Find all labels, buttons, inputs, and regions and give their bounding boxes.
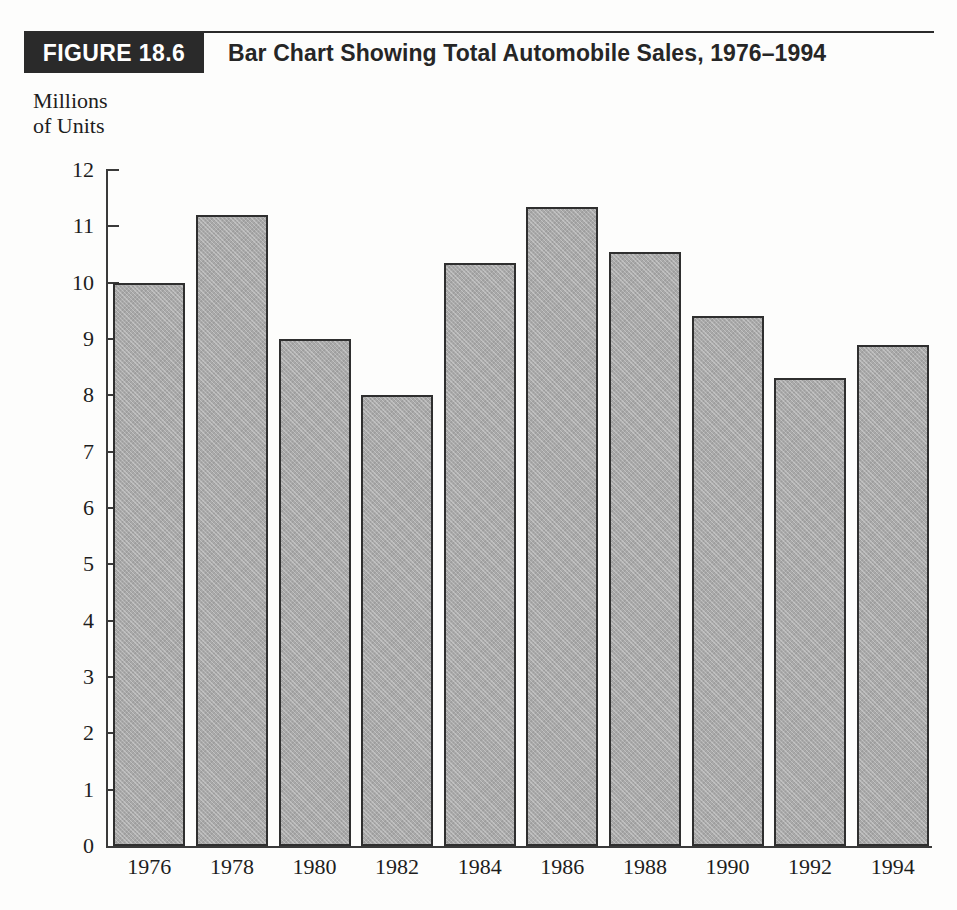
bar xyxy=(361,395,433,846)
bar xyxy=(279,339,351,846)
y-axis-line xyxy=(106,170,108,848)
bar xyxy=(774,378,846,846)
bar-chart-plot: 1211109876543210 19761978198019821984198… xyxy=(0,0,957,910)
y-tick-label: 10 xyxy=(48,272,94,294)
bar xyxy=(692,316,764,846)
bar xyxy=(609,252,681,846)
x-tick-label: 1990 xyxy=(686,856,770,878)
x-tick-label: 1978 xyxy=(190,856,274,878)
x-tick-label: 1984 xyxy=(438,856,522,878)
y-tick-label: 4 xyxy=(48,610,94,632)
x-tick-label: 1992 xyxy=(768,856,852,878)
y-tick-label: 11 xyxy=(48,215,94,237)
bar xyxy=(526,207,598,846)
x-axis-line xyxy=(106,846,932,848)
y-tick-label: 0 xyxy=(48,835,94,857)
x-tick-label: 1988 xyxy=(603,856,687,878)
bar xyxy=(444,263,516,846)
bar xyxy=(196,215,268,846)
y-tick-label: 2 xyxy=(48,722,94,744)
x-tick-label: 1994 xyxy=(851,856,935,878)
y-tick-label: 8 xyxy=(48,384,94,406)
y-tick-label: 7 xyxy=(48,441,94,463)
x-tick-label: 1980 xyxy=(273,856,357,878)
y-tick-label: 9 xyxy=(48,328,94,350)
y-tick-label: 12 xyxy=(48,159,94,181)
y-tick-label: 1 xyxy=(48,779,94,801)
y-tick-label: 3 xyxy=(48,666,94,688)
y-tick-label: 6 xyxy=(48,497,94,519)
x-tick-label: 1986 xyxy=(520,856,604,878)
y-tick-mark xyxy=(106,169,119,171)
figure-page: FIGURE 18.6 Bar Chart Showing Total Auto… xyxy=(0,0,957,910)
bar xyxy=(113,283,185,846)
bar xyxy=(857,345,929,846)
x-tick-label: 1982 xyxy=(355,856,439,878)
y-tick-label: 5 xyxy=(48,553,94,575)
y-tick-mark xyxy=(106,225,119,227)
x-tick-label: 1976 xyxy=(107,856,191,878)
